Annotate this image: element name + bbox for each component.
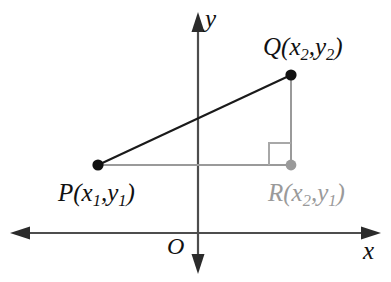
point-label-R-y-subscript: 1 xyxy=(328,191,336,210)
x-axis-label: x xyxy=(363,238,374,263)
point-dot-P xyxy=(92,159,103,170)
segment-hypotenuse-PQ xyxy=(98,75,291,165)
point-label-P-x-subscript: 1 xyxy=(93,191,101,210)
point-label-R-close-paren: ) xyxy=(337,179,345,206)
point-label-Q-y: y xyxy=(315,33,326,60)
y-axis-arrow-down-icon xyxy=(192,254,205,274)
point-label-Q: Q(x2,y2) xyxy=(263,34,343,64)
y-axis-label: y xyxy=(205,6,216,31)
coordinate-diagram: Q(x2,y2) P(x1,y1) R(x2,y1) O y x xyxy=(0,0,391,282)
point-label-Q-x: x xyxy=(289,33,300,60)
point-label-Q-x-subscript: 2 xyxy=(301,45,309,64)
point-label-Q-close-paren: ) xyxy=(334,33,342,60)
point-label-R-y: y xyxy=(317,179,328,206)
point-label-R-x: x xyxy=(292,179,303,206)
origin-label: O xyxy=(167,234,184,258)
point-label-R-open-paren: ( xyxy=(283,179,291,206)
point-label-P-letter: P xyxy=(58,179,73,206)
x-axis-arrow-left-icon xyxy=(10,227,30,240)
point-dot-Q xyxy=(285,69,296,80)
x-axis xyxy=(10,227,381,240)
point-label-P-close-paren: ) xyxy=(127,179,135,206)
point-label-R-x-subscript: 2 xyxy=(303,191,311,210)
point-label-P-x: x xyxy=(82,179,93,206)
point-dot-R xyxy=(286,160,297,171)
point-label-P-open-paren: ( xyxy=(73,179,81,206)
point-label-P-y: y xyxy=(107,179,118,206)
point-label-R-letter: R xyxy=(268,179,283,206)
point-label-R: R(x2,y1) xyxy=(268,180,345,210)
point-label-P: P(x1,y1) xyxy=(58,180,135,210)
y-axis xyxy=(192,12,205,274)
point-label-P-y-subscript: 1 xyxy=(118,191,126,210)
point-label-Q-letter: Q xyxy=(263,33,281,60)
y-axis-arrow-up-icon xyxy=(192,12,205,32)
